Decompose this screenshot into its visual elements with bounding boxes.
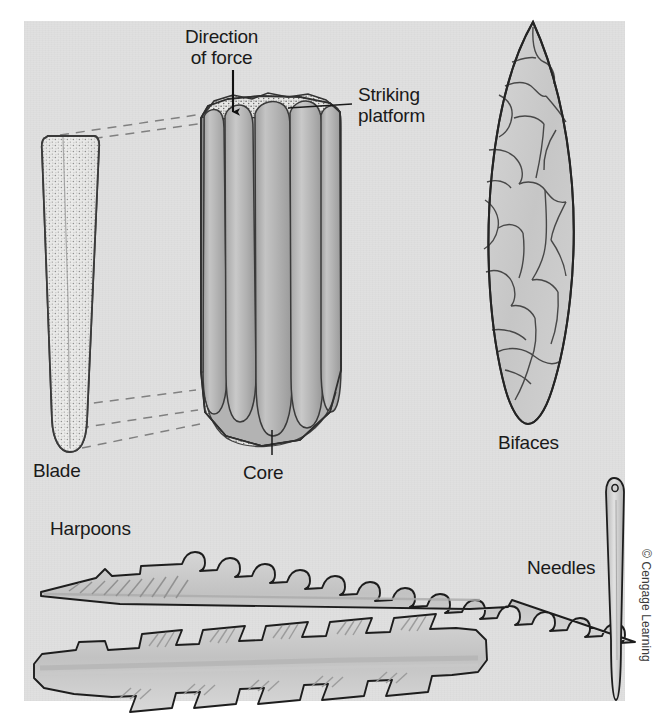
label-core: Core: [243, 462, 283, 483]
label-blade: Blade: [33, 460, 81, 481]
striking-platform-leader-line: [288, 104, 352, 108]
label-direction-of-force: Direction of force: [185, 26, 258, 68]
label-striking-platform: Striking platform: [358, 84, 425, 126]
figure-root: Direction of force Striking platform Bla…: [0, 0, 672, 721]
label-bifaces: Bifaces: [498, 432, 559, 453]
label-harpoons: Harpoons: [50, 518, 131, 539]
label-needles: Needles: [527, 557, 595, 578]
copyright-credit: © Cengage Learning: [639, 549, 653, 709]
annotation-layer: [0, 0, 672, 721]
